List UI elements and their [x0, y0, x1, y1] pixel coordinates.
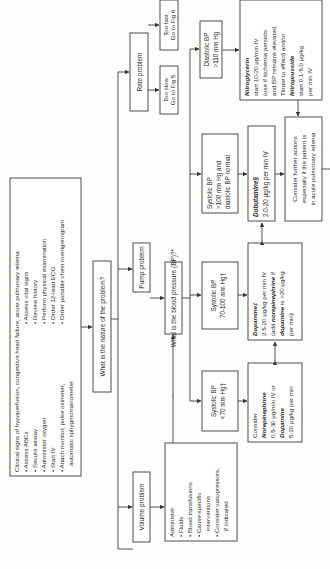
svg-text:per min): per min) — [287, 313, 294, 336]
dopamine-box: Dopamine‡ 2.5-20 μg/kg per min IV (add n… — [248, 243, 302, 340]
flowchart-canvas: Clinical signs of hypoperfusion, congest… — [0, 0, 330, 569]
svg-text:0.5-30 μg/min IV or: 0.5-30 μg/min IV or — [269, 385, 276, 438]
svg-text:Dopamine: Dopamine — [278, 408, 285, 438]
administer-item: • Cause-specific — [195, 493, 202, 537]
svg-text:Systolic BP: Systolic BP — [210, 280, 218, 312]
rate-problem-box: Rate problem — [130, 33, 148, 111]
dobutamine-box: Dobutamine§ 2.0-20 μg/kg per min IV — [248, 126, 275, 221]
administer-box: Administer • Fluids • Blood transfusions… — [165, 443, 237, 541]
svg-text:<70 mm Hg†: <70 mm Hg† — [219, 382, 227, 419]
svg-text:70-100 mm Hg†: 70-100 mm Hg† — [219, 272, 227, 318]
svg-text:Norepinephrine: Norepinephrine — [260, 392, 267, 438]
svg-text:>110 mm Hg: >110 mm Hg — [212, 31, 220, 67]
clinical-right-item: • Perform physical examination — [40, 238, 47, 324]
svg-text:Titrate to effect) and/or: Titrate to effect) and/or — [279, 34, 286, 96]
svg-text:per min IV: per min IV — [306, 67, 313, 96]
svg-text:Rate problem: Rate problem — [136, 52, 144, 91]
svg-text:especially if the patient is: especially if the patient is — [300, 135, 307, 204]
svg-text:start 10-20 μg/min IV: start 10-20 μg/min IV — [252, 38, 259, 96]
svg-text:What is the blood pressure (BP: What is the blood pressure (BP)?* — [170, 248, 178, 347]
svg-text:Go to Fig 6: Go to Fig 6 — [169, 9, 176, 40]
administer-item: if indicated — [222, 501, 229, 531]
clinical-left-item: automatic sphygmomanometer — [67, 381, 74, 466]
flowchart-svg: Clinical signs of hypoperfusion, congest… — [0, 0, 330, 569]
norepinephrine-box: Consider Norepinephrine 0.5-30 μg/min IV… — [248, 363, 302, 442]
administer-item: interventions — [204, 496, 211, 531]
consider-further-box: Consider further actions especially if t… — [285, 117, 322, 221]
svg-text:and BP remains elevated.: and BP remains elevated. — [270, 25, 277, 96]
administer-item: • Blood transfusions — [186, 482, 193, 537]
svg-text:Diastolic BP: Diastolic BP — [203, 33, 210, 67]
too-fast-box: Too fast Go to Fig 6 — [160, 0, 178, 50]
svg-text:What is the nature of the prob: What is the nature of the problem? — [99, 276, 107, 376]
clinical-left-item: • Secure airway — [31, 428, 38, 472]
bp-question-box: What is the blood pressure (BP)?* — [165, 248, 182, 347]
systolic-lt70-box: Systolic BP <70 mm Hg† — [202, 371, 238, 431]
svg-text:>100 mm Hg and: >100 mm Hg and — [215, 160, 223, 209]
clinical-signs-title: Clinical signs of hypoperfusion, congest… — [13, 251, 20, 472]
svg-text:diastolic BP normal: diastolic BP normal — [224, 155, 231, 209]
svg-text:2.5-20 μg/kg per min IV: 2.5-20 μg/kg per min IV — [260, 271, 267, 336]
svg-text:Administer: Administer — [168, 508, 175, 537]
clinical-left-item: • Start IV — [49, 447, 56, 472]
volume-problem-box: Volume problem — [133, 472, 150, 542]
svg-text:Too fast: Too fast — [162, 14, 169, 36]
svg-text:Go to Fig 5: Go to Fig 5 — [169, 74, 176, 105]
clinical-signs-box: Clinical signs of hypoperfusion, congest… — [10, 178, 81, 476]
diastolic-gt110-box: Diastolic BP >110 mm Hg — [200, 21, 222, 78]
systolic-gt100-box: Systolic BP >100 mm Hg and diastolic BP … — [202, 134, 238, 213]
svg-text:start 0.1-5.0 μg/kg: start 0.1-5.0 μg/kg — [297, 45, 304, 96]
svg-text:Volume problem: Volume problem — [138, 484, 146, 531]
svg-text:Pump problem: Pump problem — [138, 246, 146, 288]
svg-text:2.0-20 μg/kg per min IV: 2.0-20 μg/kg per min IV — [262, 151, 270, 217]
systolic-70-100-box: Systolic BP 70-100 mm Hg† — [202, 262, 238, 329]
clinical-left-item: • Assess ABCs — [22, 431, 29, 472]
svg-text:Consider: Consider — [251, 413, 258, 438]
svg-text:Too slow: Too slow — [162, 77, 169, 102]
nature-question-box: What is the nature of the problem? — [93, 261, 111, 392]
connector-line — [172, 396, 173, 443]
clinical-right-item: • Review history — [31, 279, 38, 324]
svg-text:Nitroglycerin: Nitroglycerin — [243, 58, 250, 96]
svg-text:Dobutamine§: Dobutamine§ — [252, 177, 259, 217]
dopamine-line3: (add norepinephrine if — [269, 272, 276, 336]
svg-text:Systolic BP: Systolic BP — [206, 177, 214, 209]
too-slow-box: Too slow Go to Fig 5 — [160, 66, 178, 114]
nitroglycerin-box: Nitroglycerin start 10-20 μg/min IV (use… — [240, 0, 322, 100]
administer-item: • Consider vasopressors, — [213, 468, 220, 537]
svg-text:Dopamine‡: Dopamine‡ — [251, 302, 258, 336]
svg-text:Nitroprusside: Nitroprusside — [288, 55, 295, 96]
svg-text:in acute pulmonary edema: in acute pulmonary edema — [309, 132, 316, 205]
pump-problem-box: Pump problem — [133, 243, 150, 292]
svg-text:5-20 μg/kg per min: 5-20 μg/kg per min — [287, 386, 294, 438]
svg-text:Consider further actions: Consider further actions — [291, 136, 298, 202]
dopamine-line4: dopamine is >20 μg/kg — [278, 271, 285, 336]
clinical-left-item: • Administer oxygen — [40, 417, 47, 472]
svg-text:Systolic BP: Systolic BP — [210, 385, 218, 417]
administer-item: • Fluids — [177, 517, 184, 537]
svg-text:(use if ischemia persists: (use if ischemia persists — [261, 30, 268, 96]
clinical-right-item: • Order portable chest roentgenogram — [58, 220, 65, 324]
clinical-right-item: • Assess vital signs — [22, 272, 29, 324]
clinical-left-item: • Attach monitor, pulse oximeter, — [58, 384, 65, 472]
clinical-right-item: • Order 12-lead ECG — [49, 267, 56, 324]
